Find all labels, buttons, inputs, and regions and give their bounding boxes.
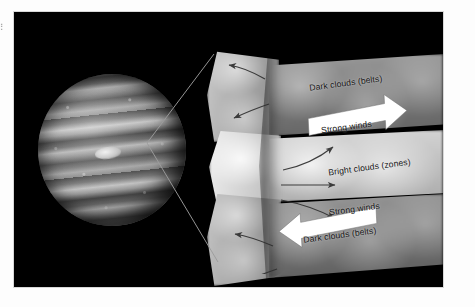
figure-root: ⣿ xyxy=(0,0,475,307)
planet-limb-shading xyxy=(38,74,186,226)
jupiter-image xyxy=(38,74,186,226)
edge-artifact-icon: ⣿ xyxy=(0,22,11,42)
atmosphere-cutaway-block: Dark clouds (belts) Strong winds Bright … xyxy=(207,34,443,274)
photo-panel: Dark clouds (belts) Strong winds Bright … xyxy=(14,12,443,287)
